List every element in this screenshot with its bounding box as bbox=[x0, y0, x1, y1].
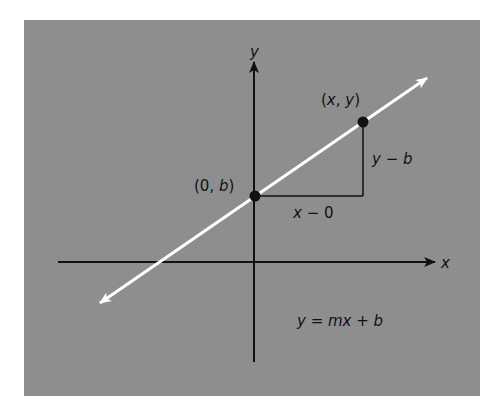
equation-label: y = mx + b bbox=[296, 312, 383, 330]
run-label: x − 0 bbox=[292, 204, 334, 222]
line-y-equals-mx-plus-b bbox=[100, 78, 427, 303]
rise-label: y − b bbox=[371, 150, 413, 168]
line-diagram: y x (x, y) (0, b) y − b x − 0 y = mx + b bbox=[0, 0, 499, 411]
y-axis-label: y bbox=[249, 43, 260, 61]
point-x-y-label: (x, y) bbox=[321, 91, 360, 109]
point-y-intercept-label: (0, b) bbox=[194, 177, 234, 195]
x-axis-label: x bbox=[440, 254, 450, 272]
point-y-intercept bbox=[250, 191, 261, 202]
point-x-y bbox=[358, 117, 369, 128]
